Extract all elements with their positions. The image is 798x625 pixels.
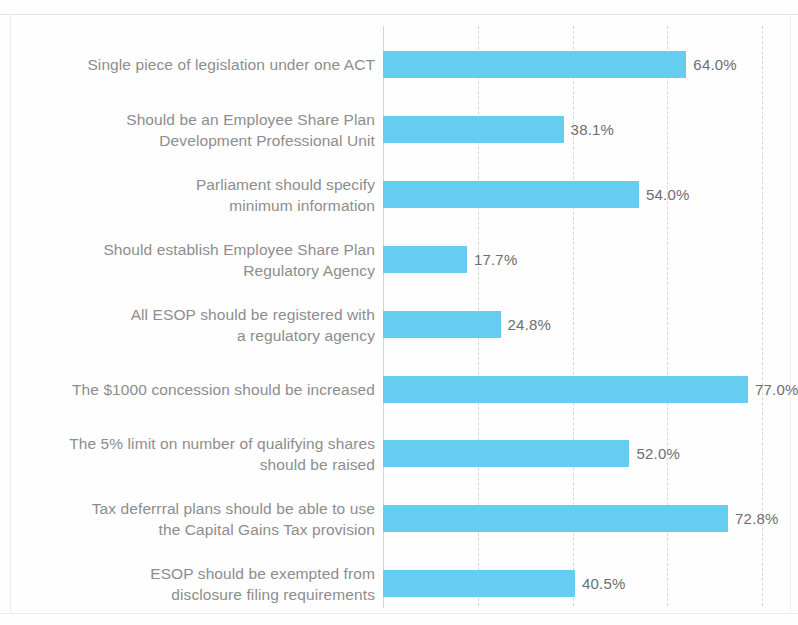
- bar-row: Single piece of legislation under one AC…: [0, 51, 798, 78]
- value-label: 64.0%: [693, 51, 737, 78]
- value-label: 77.0%: [755, 376, 798, 403]
- value-label: 17.7%: [474, 246, 518, 273]
- bar-row: Tax deferrral plans should be able to us…: [0, 505, 798, 532]
- bar: [383, 116, 564, 143]
- bar: [383, 246, 467, 273]
- bar-chart: Single piece of legislation under one AC…: [0, 0, 798, 625]
- category-label: All ESOP should be registered with a reg…: [15, 304, 375, 346]
- value-label: 24.8%: [508, 311, 552, 338]
- category-label: The 5% limit on number of qualifying sha…: [15, 433, 375, 475]
- value-label: 54.0%: [646, 181, 690, 208]
- bar: [383, 181, 639, 208]
- bar-row: Should be an Employee Share Plan Develop…: [0, 116, 798, 143]
- value-label: 38.1%: [571, 116, 615, 143]
- bar-row: The 5% limit on number of qualifying sha…: [0, 440, 798, 467]
- bar-row: The $1000 concession should be increased…: [0, 376, 798, 403]
- bar: [383, 440, 629, 467]
- value-label: 52.0%: [636, 440, 680, 467]
- value-label: 72.8%: [735, 505, 779, 532]
- bar-row: All ESOP should be registered with a reg…: [0, 311, 798, 338]
- bar-row: Parliament should specify minimum inform…: [0, 181, 798, 208]
- category-label: Single piece of legislation under one AC…: [15, 54, 375, 75]
- category-label: Parliament should specify minimum inform…: [15, 174, 375, 216]
- bar-row: ESOP should be exempted from disclosure …: [0, 570, 798, 597]
- bar-row: Should establish Employee Share Plan Reg…: [0, 246, 798, 273]
- category-label: Tax deferrral plans should be able to us…: [15, 498, 375, 540]
- category-label: ESOP should be exempted from disclosure …: [15, 563, 375, 605]
- value-label: 40.5%: [582, 570, 626, 597]
- bar: [383, 505, 728, 532]
- bar: [383, 51, 686, 78]
- bar: [383, 376, 748, 403]
- category-label: Should establish Employee Share Plan Reg…: [15, 239, 375, 281]
- category-label: The $1000 concession should be increased: [15, 379, 375, 400]
- bar: [383, 570, 575, 597]
- bar: [383, 311, 501, 338]
- category-label: Should be an Employee Share Plan Develop…: [15, 109, 375, 151]
